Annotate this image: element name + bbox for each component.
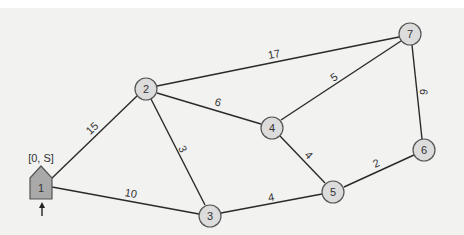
weight-2-7: 17 bbox=[267, 47, 281, 61]
graph-diagram: 15 10 3 6 17 4 4 5 2 6 1 [0, S] 2 3 4 bbox=[0, 0, 464, 235]
weight-4-5: 4 bbox=[303, 149, 316, 162]
weight-5-6: 2 bbox=[371, 156, 382, 169]
source-label: [0, S] bbox=[28, 152, 54, 164]
weight-6-7: 6 bbox=[418, 88, 431, 95]
node-label-7: 7 bbox=[407, 28, 413, 40]
weight-2-4: 6 bbox=[213, 95, 222, 108]
node-4: 4 bbox=[261, 117, 283, 139]
node-label-1: 1 bbox=[38, 182, 44, 194]
node-5: 5 bbox=[322, 181, 344, 203]
up-arrow-icon bbox=[39, 202, 45, 216]
edge-4-7 bbox=[281, 41, 401, 120]
weight-1-3: 10 bbox=[124, 186, 138, 200]
edges bbox=[50, 37, 422, 214]
node-label-2: 2 bbox=[143, 83, 149, 95]
node-3: 3 bbox=[199, 205, 221, 227]
edge-4-5 bbox=[280, 136, 325, 183]
node-label-6: 6 bbox=[421, 144, 427, 156]
weight-2-3: 3 bbox=[176, 144, 189, 155]
node-6: 6 bbox=[413, 139, 435, 161]
edge-weights: 15 10 3 6 17 4 4 5 2 6 bbox=[83, 47, 430, 203]
node-1-source: 1 bbox=[30, 166, 52, 199]
node-label-5: 5 bbox=[330, 186, 336, 198]
edge-2-4 bbox=[157, 93, 261, 124]
weight-3-5: 4 bbox=[267, 191, 275, 204]
node-7: 7 bbox=[399, 23, 421, 45]
node-label-4: 4 bbox=[269, 122, 275, 134]
edge-2-7 bbox=[157, 37, 399, 86]
edge-5-6 bbox=[344, 155, 414, 187]
node-2: 2 bbox=[135, 78, 157, 100]
edge-1-2 bbox=[50, 96, 137, 180]
node-label-3: 3 bbox=[207, 210, 213, 222]
